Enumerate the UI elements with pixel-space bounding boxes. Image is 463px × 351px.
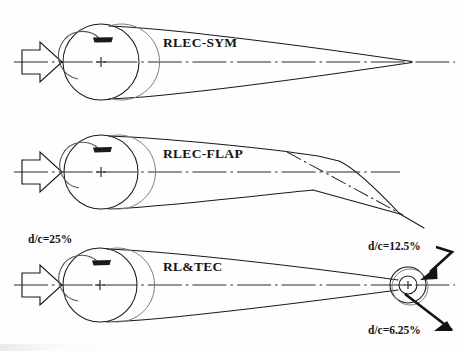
annotation-dc-leading-edge: d/c=25% bbox=[28, 233, 72, 245]
trailing-edge-cylinder-outer-ghost bbox=[392, 269, 428, 305]
flap-trailing-edge-flap bbox=[400, 214, 424, 228]
dc-outer-trailing-label: d/c=12.5% bbox=[368, 240, 421, 252]
annotation-dc-outer-trailing: d/c=12.5% bbox=[368, 240, 452, 280]
config-label-rlec-flap: RLEC-FLAP bbox=[163, 146, 243, 161]
rotation-arc-flap bbox=[60, 142, 99, 188]
figure-canvas: RLEC-SYM RLEC-FLAP bbox=[0, 0, 463, 351]
annotation-dc-inner-trailing: d/c=6.25% bbox=[368, 294, 453, 336]
airfoil-lower-surface-flap bbox=[109, 190, 400, 214]
rotation-arrowhead-tec bbox=[92, 260, 111, 265]
rotation-arc-tec bbox=[59, 255, 98, 301]
rotation-arrowhead-sym bbox=[93, 37, 113, 42]
config-rlec-flap: RLEC-FLAP bbox=[14, 135, 424, 228]
rotation-arc-sym bbox=[58, 31, 99, 79]
dc-leading-edge-label: d/c=25% bbox=[28, 233, 72, 245]
config-label-rl-tec: RL&TEC bbox=[163, 259, 223, 274]
center-mark-tec bbox=[95, 280, 105, 290]
config-rl-tec: RL&TEC bbox=[14, 248, 455, 322]
center-mark-trailing-edge bbox=[404, 281, 412, 289]
rotation-arrowhead-flap bbox=[93, 147, 112, 152]
airfoil-upper-surface-sym bbox=[109, 26, 412, 62]
airfoil-upper-surface-tec bbox=[107, 249, 398, 280]
center-mark-sym bbox=[96, 57, 106, 67]
airfoil-configurations-figure: RLEC-SYM RLEC-FLAP bbox=[0, 0, 463, 351]
center-mark-flap bbox=[96, 167, 106, 177]
dc-inner-trailing-label: d/c=6.25% bbox=[368, 324, 421, 336]
hinge-line-flap bbox=[287, 152, 403, 215]
airfoil-lower-surface-tec bbox=[107, 290, 398, 322]
config-label-rlec-sym: RLEC-SYM bbox=[163, 35, 237, 50]
config-rlec-sym: RLEC-SYM bbox=[14, 24, 455, 100]
dc-outer-trailing-leader bbox=[430, 247, 452, 272]
dc-outer-trailing-arrowhead bbox=[420, 266, 438, 280]
